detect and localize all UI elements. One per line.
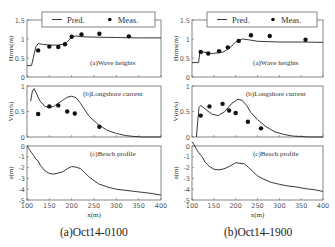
subplot-longshore-current: 00.51V(m/s)(b)Longshore current — [172, 83, 323, 142]
x-tick-label: 300 — [110, 202, 122, 210]
measured-point — [220, 102, 224, 106]
subplot-annotation: (c)Beach profile — [90, 150, 136, 158]
measured-point — [303, 38, 307, 42]
y-tick-label: -4 — [19, 186, 25, 194]
measured-point — [237, 39, 241, 43]
y-tick-label: 0 — [21, 74, 25, 82]
y-tick-label: -4 — [184, 186, 190, 194]
y-axis-label: V(m/s) — [7, 101, 15, 122]
y-axis-label: Hrms(m) — [7, 35, 15, 61]
figure-canvas: 00.511.5Hrms(m)(a)Wave heights00.51V(m/s… — [0, 0, 335, 247]
subplot-beach-profile: 0-1-2-3-4-5100150200250300350400z(m)(c)B… — [172, 142, 329, 219]
y-tick-label: 0 — [21, 134, 25, 142]
legend-dot-icon — [271, 18, 275, 22]
panel-caption-right: (b)Oct14-1900 — [224, 226, 292, 238]
subplot-annotation: (b)Longshore current — [246, 90, 306, 98]
y-tick-label: 1 — [186, 36, 190, 44]
predicted-line — [196, 99, 323, 137]
legend-meas-label: Meas. — [281, 15, 302, 25]
measured-point — [233, 111, 237, 115]
y-tick-label: 0.5 — [180, 108, 190, 116]
subplot-annotation: (a)Wave heights — [90, 59, 136, 67]
y-tick-label: 1.5 — [180, 17, 190, 25]
measured-point — [127, 34, 131, 38]
x-tick-label: 150 — [208, 202, 220, 210]
y-axis-label: z(m) — [7, 166, 15, 180]
y-tick-label: 0 — [186, 143, 190, 151]
y-tick-label: -1 — [19, 153, 25, 161]
x-tick-label: 100 — [21, 202, 33, 210]
y-tick-label: 0.5 — [15, 55, 25, 63]
y-tick-label: 1 — [21, 36, 25, 44]
measured-point — [56, 103, 60, 107]
y-axis-label: z(m) — [172, 166, 180, 180]
legend-meas-label: Meas. — [118, 15, 139, 25]
legend-dot-icon — [108, 18, 112, 22]
legend: Pred.Meas. — [207, 12, 317, 27]
x-tick-label: 150 — [43, 202, 55, 210]
measured-point — [268, 34, 272, 38]
subplot-beach-profile: 0-1-2-3-4-5100150200250300350400z(m)(c)B… — [7, 143, 167, 220]
measured-point — [65, 109, 69, 113]
x-tick-label: 250 — [251, 202, 263, 210]
measured-point — [97, 31, 101, 35]
legend: Pred.Meas. — [42, 12, 155, 27]
measured-point — [207, 104, 211, 108]
measured-point — [259, 126, 263, 130]
y-tick-label: 0 — [186, 134, 190, 142]
y-tick-label: 0.5 — [15, 108, 25, 116]
y-tick-label: 1 — [186, 83, 190, 91]
y-tick-label: 1 — [21, 83, 25, 91]
x-tick-label: 300 — [273, 202, 285, 210]
measured-point — [249, 33, 253, 37]
measured-point — [47, 44, 51, 48]
measured-point — [246, 120, 250, 124]
y-tick-label: -2 — [19, 164, 25, 172]
measured-point — [69, 35, 73, 39]
subplot-annotation: (c)Beach profile — [253, 150, 299, 158]
y-tick-label: 0 — [21, 143, 25, 151]
y-tick-label: 1.5 — [15, 17, 25, 25]
y-tick-label: -1 — [184, 153, 190, 161]
legend-pred-label: Pred. — [67, 15, 85, 25]
x-tick-label: 200 — [229, 202, 241, 210]
y-axis-label: Hrms(m) — [172, 35, 180, 61]
y-tick-label: 0.5 — [180, 55, 190, 63]
subplot-annotation: (b)Longshore current — [83, 90, 143, 98]
measured-point — [206, 51, 210, 55]
x-tick-label: 400 — [155, 202, 167, 210]
measured-point — [36, 112, 40, 116]
y-tick-label: -3 — [19, 175, 25, 183]
x-axis-label: x(m) — [251, 211, 265, 219]
measured-point — [227, 108, 231, 112]
subplot-annotation: (a)Wave heights — [253, 59, 299, 67]
x-tick-label: 350 — [295, 202, 307, 210]
y-tick-label: -2 — [184, 164, 190, 172]
measured-point — [217, 49, 221, 53]
x-tick-label: 350 — [132, 202, 144, 210]
x-tick-label: 250 — [88, 202, 100, 210]
x-tick-label: 100 — [186, 202, 198, 210]
plot-frame — [192, 20, 323, 77]
plot-frame — [27, 20, 161, 77]
measured-point — [199, 50, 203, 54]
measured-point — [63, 42, 67, 46]
panel-caption-left: (a)Oct14-0100 — [60, 226, 128, 238]
measured-point — [226, 45, 230, 49]
y-tick-label: 0 — [186, 74, 190, 82]
subplot-longshore-current: 00.51V(m/s)(b)Longshore current — [7, 83, 161, 142]
x-tick-label: 400 — [317, 202, 329, 210]
measured-point — [199, 113, 203, 117]
measured-point — [73, 111, 77, 115]
measured-point — [47, 104, 51, 108]
measured-point — [97, 125, 101, 129]
y-tick-label: -3 — [184, 175, 190, 183]
y-axis-label: V(m/s) — [172, 101, 180, 122]
legend-pred-label: Pred. — [232, 15, 250, 25]
measured-point — [79, 32, 83, 36]
x-axis-label: x(m) — [87, 211, 101, 219]
x-tick-label: 200 — [65, 202, 77, 210]
measured-point — [56, 45, 60, 49]
measured-point — [36, 48, 40, 52]
